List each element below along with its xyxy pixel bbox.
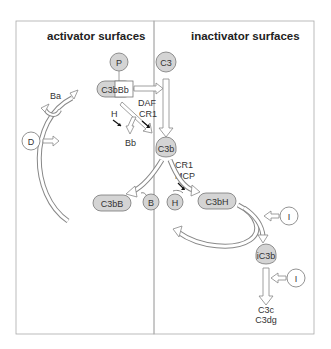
bb-release-arrow — [126, 117, 136, 134]
ba-label: Ba — [50, 91, 61, 101]
c3bb-arrowhead — [126, 186, 137, 197]
c3dg-label: C3dg — [255, 315, 277, 325]
properdin-label: P — [116, 58, 122, 68]
i-action-arrow-1 — [264, 211, 279, 221]
convertase-arrow — [134, 83, 163, 94]
ic3b-label: iC3b — [257, 251, 276, 261]
factor-i-label-1: I — [288, 212, 291, 222]
factor-b-label: B — [148, 198, 154, 208]
bb-label: Bb — [125, 138, 136, 148]
c3bb-label: C3bB — [101, 199, 124, 209]
h-regulator-label: H — [111, 109, 118, 119]
cr1-top-label: CR1 — [139, 109, 157, 119]
c3bh-label: C3bH — [205, 197, 228, 207]
c3b-label: C3b — [158, 144, 175, 154]
c3c-label: C3c — [258, 305, 275, 315]
activator-surfaces-title: activator surfaces — [47, 30, 145, 42]
h-binding-curve — [173, 190, 183, 193]
i-action-arrow-2 — [271, 273, 286, 283]
complement-pathway-diagram: activator surfaces inactivator surfaces … — [0, 0, 331, 349]
ic3b-cleavage-arrow — [259, 268, 273, 305]
inactivator-surfaces-title: inactivator surfaces — [191, 30, 300, 42]
cr1-mid-label: CR1 — [175, 160, 193, 170]
factor-h-label: H — [172, 198, 179, 208]
factor-i-label-2: I — [295, 274, 298, 284]
factor-d-label: D — [28, 137, 35, 147]
c3bbb-label: C3bBb — [101, 85, 129, 95]
c3bh-arrowhead — [191, 185, 200, 196]
activator-panel — [16, 21, 154, 334]
ic3b-arrowhead — [258, 235, 268, 243]
daf-label: DAF — [138, 98, 157, 108]
c3-label: C3 — [160, 58, 172, 68]
d-action-arrow — [43, 136, 59, 146]
